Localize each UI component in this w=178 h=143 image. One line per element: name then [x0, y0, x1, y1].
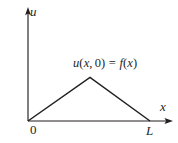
axis-label-u: u [30, 5, 37, 18]
figure-container: u x 0 L u(x,0)=f(x) [0, 0, 178, 143]
diagram-canvas [0, 0, 178, 143]
equation-part-close-paren-2: ) [133, 56, 137, 70]
axis-label-x: x [160, 100, 166, 113]
curve-annotation-equation: u(x,0)=f(x) [73, 57, 137, 70]
tick-label-right-endpoint: L [146, 124, 153, 137]
equation-part-comma: , [89, 56, 92, 70]
initial-condition-curve [28, 78, 150, 122]
equation-part-close-paren: ) [101, 56, 105, 70]
equation-part-equals: = [109, 56, 116, 70]
tick-label-origin: 0 [30, 123, 37, 136]
